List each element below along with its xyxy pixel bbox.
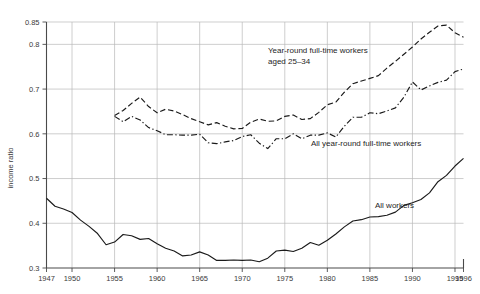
y-tick-label: 0.3	[29, 264, 39, 273]
y-axis-title: income ratio	[6, 148, 15, 189]
x-tick-label: 1950	[64, 274, 81, 283]
y-tick-label: 0.85	[25, 18, 40, 27]
series-line-all-workers	[47, 158, 464, 261]
series-line-all-fulltime	[115, 69, 464, 149]
x-tick-label: 1990	[404, 274, 421, 283]
x-tick-marks	[47, 268, 464, 272]
x-tick-label: 1955	[106, 274, 123, 283]
x-tick-labels: 1947195019551960196519701975198019851990…	[38, 274, 472, 283]
series-label-all-workers: All workers	[375, 201, 414, 210]
series-label-young-fulltime-line1: Year-round full-time workers	[268, 46, 368, 55]
y-tick-labels: 0.30.40.50.60.70.80.85	[25, 18, 40, 273]
y-tick-marks	[43, 22, 47, 268]
y-tick-label: 0.8	[29, 40, 39, 49]
x-tick-label: 1947	[38, 274, 55, 283]
income-ratio-chart: 0.30.40.50.60.70.80.85 19471950195519601…	[0, 0, 480, 294]
x-tick-label: 1975	[276, 274, 293, 283]
x-tick-label: 1985	[362, 274, 379, 283]
y-tick-label: 0.4	[29, 219, 39, 228]
series-label-young-fulltime-line2: aged 25–34	[268, 57, 311, 66]
series-annotations: Year-round full-time workers aged 25–34 …	[268, 46, 421, 210]
y-tick-label: 0.7	[29, 85, 39, 94]
y-tick-label: 0.6	[29, 130, 39, 139]
series-label-all-fulltime: All year-round full-time workers	[311, 139, 421, 148]
x-tick-label: 1970	[234, 274, 251, 283]
x-tick-label: 1980	[319, 274, 336, 283]
chart-canvas: 0.30.40.50.60.70.80.85 19471950195519601…	[0, 0, 480, 294]
x-tick-label: 1965	[191, 274, 208, 283]
x-tick-label: 1960	[149, 274, 166, 283]
x-tick-label: 1996	[455, 274, 472, 283]
y-tick-label: 0.5	[29, 174, 39, 183]
series-line-young-fulltime	[115, 25, 464, 129]
